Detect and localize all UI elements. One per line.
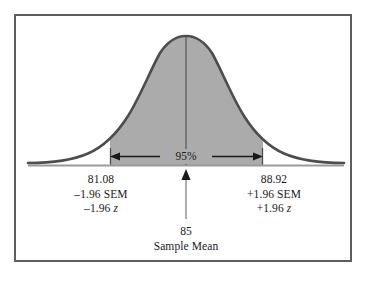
lower-limit-value: 81.08 [45, 172, 157, 187]
lower-limit-z-symbol: z [113, 202, 118, 214]
lower-limit-z: –1.96 z [45, 201, 157, 216]
coverage-percent-label: 95% [160, 149, 212, 164]
upper-limit-z-prefix: +1.96 [257, 202, 287, 214]
upper-limit-label-group: 88.92 +1.96 SEM +1.96 z [216, 172, 332, 216]
upper-limit-value: 88.92 [216, 172, 332, 187]
sample-mean-caption: Sample Mean [131, 239, 241, 254]
sample-mean-label-group: 85 Sample Mean [131, 224, 241, 253]
upper-limit-z: +1.96 z [216, 201, 332, 216]
sample-mean-value: 85 [131, 224, 241, 239]
upper-limit-z-symbol: z [287, 202, 292, 214]
sample-mean-pointer-arrowhead [181, 169, 190, 180]
figure-root: 95% 81.08 –1.96 SEM –1.96 z 88.92 +1.96 … [0, 0, 370, 281]
lower-limit-label-group: 81.08 –1.96 SEM –1.96 z [45, 172, 157, 216]
lower-limit-z-prefix: –1.96 [84, 202, 113, 214]
lower-limit-sem: –1.96 SEM [45, 187, 157, 202]
upper-limit-sem: +1.96 SEM [216, 187, 332, 202]
